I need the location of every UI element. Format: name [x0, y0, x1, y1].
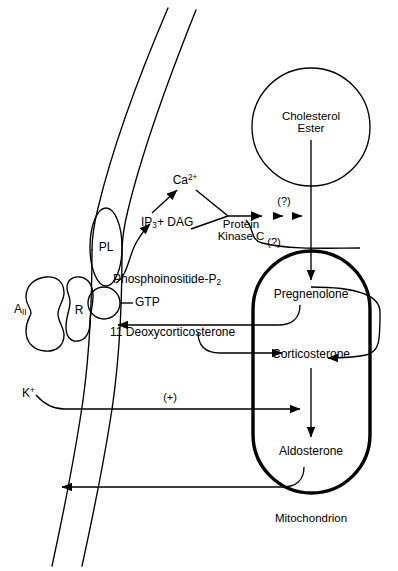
calcium-label: Ca2+ — [173, 174, 198, 187]
question-mark-lower: (?) — [267, 237, 280, 249]
receptor-label: R — [75, 304, 84, 317]
ip3-dag-label: IP3+ DAG — [141, 216, 193, 231]
pathway-diagram: AII R PL GTP IP3+ DAG Ca2+ Protein Kinas… — [0, 0, 398, 571]
protein-kinase-c-label: Protein Kinase C — [218, 218, 265, 243]
gtp-label: GTP — [135, 296, 160, 309]
phospholipase-label: PL — [99, 241, 114, 254]
angiotensin-receptor-shape — [26, 277, 64, 351]
phosphoinositide-label: Phosphoinositide-P2 — [113, 273, 221, 288]
angiotensin-label: AII — [14, 303, 27, 318]
calcium-to-pkc-line — [196, 190, 228, 216]
mitochondrion-label: Mitochondrion — [275, 512, 347, 524]
plus-sign-label: (+) — [163, 392, 177, 404]
potassium-label: K+ — [22, 387, 35, 400]
deoxycorticosterone-label: 11 Deoxycorticosterone — [110, 326, 235, 339]
question-mark-upper: (?) — [277, 196, 290, 208]
corticosterone-label: Corticosterone — [272, 348, 350, 361]
cholesterol-ester-label: Cholesterol Ester — [282, 110, 340, 135]
ip3-to-calcium-arrow — [152, 190, 177, 213]
aldosterone-label: Aldosterone — [279, 445, 343, 458]
pregnenolone-label: Pregnenolone — [274, 288, 349, 301]
membrane-outer-upper — [92, 8, 168, 250]
